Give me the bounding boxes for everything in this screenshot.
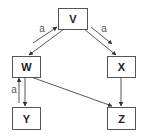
edge-v-to-x-lower	[84, 29, 116, 55]
node-z-label: Z	[118, 113, 125, 125]
node-v-label: V	[69, 13, 77, 25]
node-v: V	[59, 9, 88, 30]
graph-diagram: a a a V W X Y Z	[0, 0, 143, 136]
edge-w-to-v	[33, 27, 57, 43]
node-z: Z	[108, 108, 136, 130]
node-x: X	[108, 57, 136, 78]
edge-label-v-to-x: a	[101, 23, 107, 34]
edge-label-y-to-w: a	[11, 84, 17, 95]
node-y: Y	[13, 108, 41, 130]
edge-label-w-to-v: a	[39, 23, 45, 34]
node-x-label: X	[118, 61, 126, 73]
node-w-label: W	[21, 61, 32, 73]
edge-w-to-z	[31, 77, 112, 106]
node-y-label: Y	[23, 113, 31, 125]
node-w: W	[13, 57, 41, 78]
